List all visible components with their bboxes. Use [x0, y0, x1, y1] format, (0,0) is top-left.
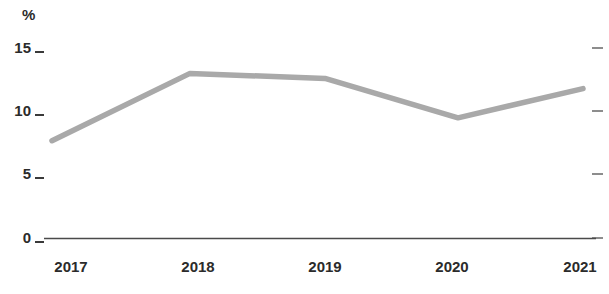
data-series-line — [52, 73, 583, 140]
x-axis-tick-2017: 2017 — [54, 258, 87, 275]
x-axis-tick-2021: 2021 — [563, 258, 596, 275]
x-axis-tick-2019: 2019 — [308, 258, 341, 275]
x-axis-tick-2018: 2018 — [181, 258, 214, 275]
x-axis-tick-2020: 2020 — [435, 258, 468, 275]
plot-area — [0, 0, 609, 294]
line-chart: % 15 10 5 0 2017 2018 2019 2020 2021 — [0, 0, 609, 294]
